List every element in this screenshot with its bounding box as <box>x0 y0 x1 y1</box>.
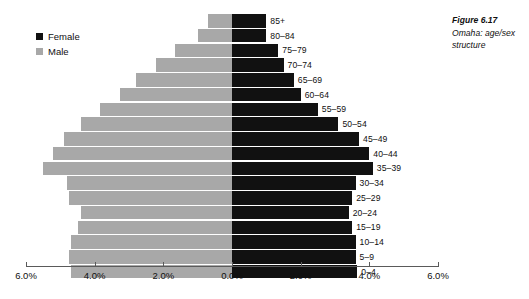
bar-female <box>232 221 352 235</box>
bar-female <box>232 176 356 190</box>
pyramid-row: 75–79 <box>26 44 438 58</box>
age-group-label: 75–79 <box>282 45 306 55</box>
bar-male <box>175 44 232 58</box>
axis-tick-label: 4.0% <box>84 270 106 281</box>
bar-male <box>120 88 232 102</box>
pyramid-row: 50–54 <box>26 117 438 131</box>
bar-female <box>232 117 338 131</box>
pyramid-row: 30–34 <box>26 176 438 190</box>
bar-male <box>198 29 232 43</box>
pyramid-row: 25–29 <box>26 191 438 205</box>
bar-female <box>232 235 356 249</box>
caption-text: Omaha: age/sex structure <box>452 27 529 52</box>
bar-male <box>136 73 232 87</box>
age-group-label: 15–19 <box>356 222 380 232</box>
bar-male <box>71 235 232 249</box>
age-group-label: 55–59 <box>322 104 346 114</box>
bar-female <box>232 29 266 43</box>
chart-legend: Female Male <box>36 30 80 60</box>
legend-label-female: Female <box>48 31 80 42</box>
bar-female <box>232 206 349 220</box>
bar-male <box>100 103 232 117</box>
bar-male <box>64 132 232 146</box>
bar-male <box>43 162 232 176</box>
axis-tick-label: 2.0% <box>290 270 312 281</box>
bar-female <box>232 58 284 72</box>
age-group-label: 5–9 <box>360 252 375 262</box>
pyramid-row: 45–49 <box>26 132 438 146</box>
axis-tick-label: 0.0% <box>221 270 243 281</box>
pyramid-row: 15–19 <box>26 221 438 235</box>
age-group-label: 80–84 <box>270 31 294 41</box>
axis-tick <box>95 262 96 267</box>
female-swatch-icon <box>36 33 43 40</box>
pyramid-row: 85+ <box>26 14 438 28</box>
axis-tick <box>163 262 164 267</box>
axis-tick <box>369 262 370 267</box>
axis-tick <box>301 262 302 267</box>
chart-panel: 85+80–8475–7970–7465–6960–6455–5950–5445… <box>0 0 452 299</box>
bar-female <box>232 14 266 28</box>
pyramid-row: 80–84 <box>26 29 438 43</box>
pyramid-row: 65–69 <box>26 73 438 87</box>
age-group-label: 70–74 <box>288 60 312 70</box>
legend-item-male: Male <box>36 45 80 58</box>
bar-female <box>232 44 278 58</box>
caption-title: Figure 6.17 <box>452 14 529 27</box>
axis-tick-label: 4.0% <box>359 270 381 281</box>
axis-tick <box>232 262 233 267</box>
bar-male <box>208 14 232 28</box>
age-group-label: 10–14 <box>360 237 384 247</box>
pyramid-row: 10–14 <box>26 235 438 249</box>
figure-population-pyramid: 85+80–8475–7970–7465–6960–6455–5950–5445… <box>0 0 529 299</box>
age-group-label: 25–29 <box>356 193 380 203</box>
bar-female <box>232 191 352 205</box>
pyramid-row: 55–59 <box>26 103 438 117</box>
age-group-label: 65–69 <box>298 75 322 85</box>
bar-female <box>232 103 318 117</box>
age-group-label: 35–39 <box>377 163 401 173</box>
bar-female <box>232 88 301 102</box>
age-group-label: 85+ <box>270 16 285 26</box>
pyramid-row: 20–24 <box>26 206 438 220</box>
bar-male <box>69 250 232 264</box>
bar-male <box>156 58 232 72</box>
legend-item-female: Female <box>36 30 80 43</box>
age-group-label: 45–49 <box>363 134 387 144</box>
age-group-label: 40–44 <box>373 149 397 159</box>
axis-tick-label: 6.0% <box>15 270 37 281</box>
axis-tick-label: 2.0% <box>153 270 175 281</box>
bar-male <box>69 191 232 205</box>
bar-female <box>232 132 359 146</box>
pyramid-row: 60–64 <box>26 88 438 102</box>
axis-tick <box>438 262 439 267</box>
bar-male <box>67 176 232 190</box>
pyramid-row: 35–39 <box>26 162 438 176</box>
age-group-label: 50–54 <box>342 119 366 129</box>
pyramid-row: 70–74 <box>26 58 438 72</box>
age-group-label: 60–64 <box>305 90 329 100</box>
pyramid-row: 40–44 <box>26 147 438 161</box>
bar-female <box>232 250 356 264</box>
figure-caption: Figure 6.17 Omaha: age/sex structure <box>452 14 529 52</box>
bar-male <box>78 221 233 235</box>
bar-female <box>232 162 373 176</box>
bar-female <box>232 147 369 161</box>
bar-male <box>53 147 232 161</box>
age-group-label: 20–24 <box>353 208 377 218</box>
plot-area: 85+80–8475–7970–7465–6960–6455–5950–5445… <box>26 14 438 262</box>
legend-label-male: Male <box>48 46 69 57</box>
axis-tick <box>26 262 27 267</box>
bar-male <box>81 206 232 220</box>
male-swatch-icon <box>36 48 43 55</box>
bar-female <box>232 73 294 87</box>
age-group-label: 30–34 <box>360 178 384 188</box>
bar-male <box>81 117 232 131</box>
axis-tick-label: 6.0% <box>427 270 449 281</box>
